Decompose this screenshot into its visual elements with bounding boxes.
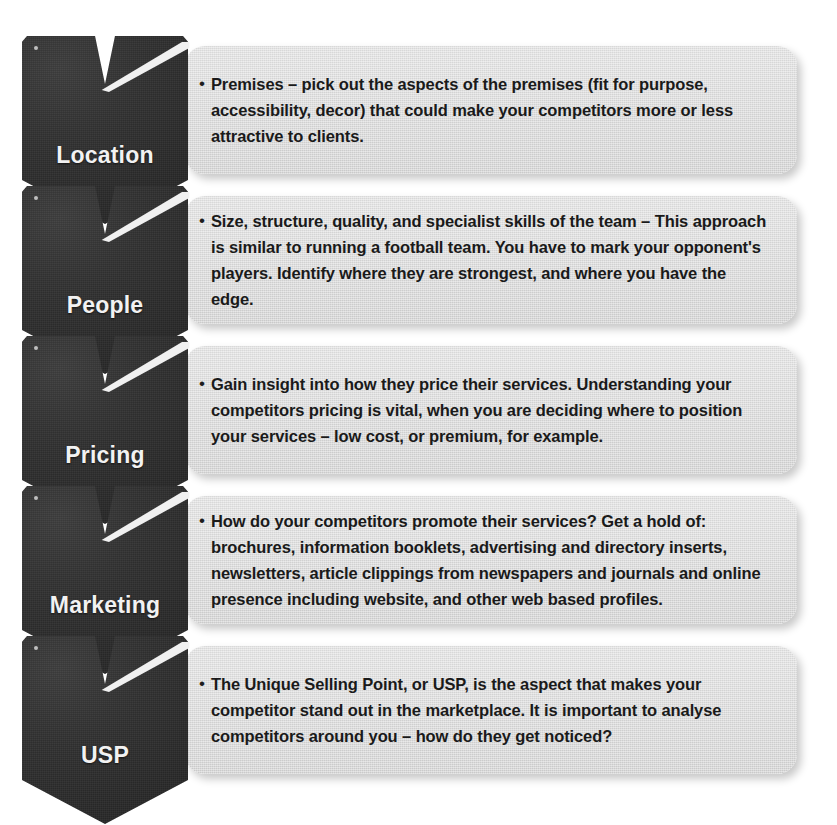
diagram-row: People • Size, structure, quality, and s… (0, 184, 837, 334)
bullet-dot-icon: • (199, 71, 211, 97)
content-panel: • How do your competitors promote their … (185, 496, 797, 624)
content-panel: • Premises – pick out the aspects of the… (185, 46, 797, 174)
bullet-item: • Size, structure, quality, and speciali… (185, 208, 771, 312)
diagram-row: Marketing • How do your competitors prom… (0, 484, 837, 634)
chevron-down-badge[interactable]: USP (22, 634, 188, 825)
bullet-dot-icon: • (199, 671, 211, 697)
competitor-analysis-diagram: Location • Premises – pick out the aspec… (0, 0, 837, 825)
panel-text: Size, structure, quality, and specialist… (211, 208, 771, 312)
content-panel: • The Unique Selling Point, or USP, is t… (185, 646, 797, 774)
chevron-label: USP (22, 742, 188, 769)
content-panel: • Size, structure, quality, and speciali… (185, 196, 797, 324)
chevron-label: People (22, 292, 188, 319)
panel-text: Gain insight into how they price their s… (211, 371, 771, 449)
panel-text: Premises – pick out the aspects of the p… (211, 71, 771, 149)
chevron-shape (22, 634, 188, 825)
bullet-item: • Premises – pick out the aspects of the… (185, 71, 771, 149)
bullet-dot-icon: • (199, 208, 211, 234)
chevron-label: Pricing (22, 442, 188, 469)
diagram-row: Pricing • Gain insight into how they pri… (0, 334, 837, 484)
panel-text: The Unique Selling Point, or USP, is the… (211, 671, 771, 749)
chevron-label: Marketing (22, 592, 188, 619)
bullet-dot-icon: • (199, 371, 211, 397)
bullet-item: • The Unique Selling Point, or USP, is t… (185, 671, 771, 749)
chevron-label: Location (22, 142, 188, 169)
content-panel: • Gain insight into how they price their… (185, 346, 797, 474)
bullet-dot-icon: • (199, 508, 211, 534)
bullet-item: • How do your competitors promote their … (185, 508, 771, 612)
diagram-row: USP • The Unique Selling Point, or USP, … (0, 634, 837, 784)
diagram-row: Location • Premises – pick out the aspec… (0, 34, 837, 184)
bullet-item: • Gain insight into how they price their… (185, 371, 771, 449)
panel-text: How do your competitors promote their se… (211, 508, 771, 612)
